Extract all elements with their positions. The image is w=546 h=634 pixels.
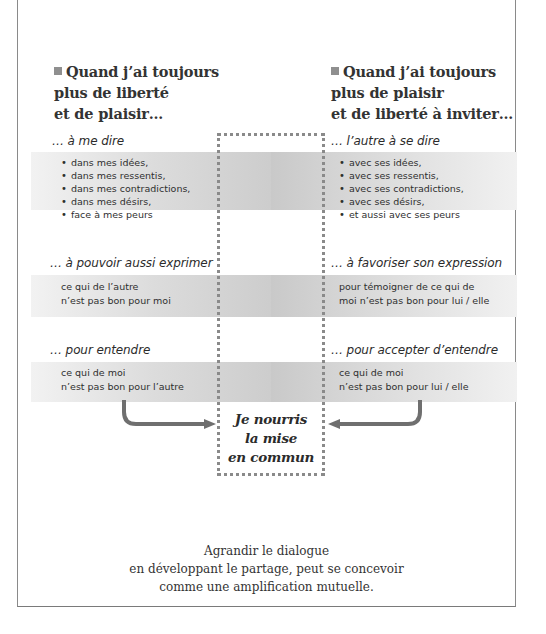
list-item: avec ses idées, bbox=[339, 156, 517, 169]
diagram-caption: Agrandir le dialogue en développant le p… bbox=[17, 542, 516, 596]
right-heading-line-1: Quand j’ai toujours bbox=[343, 63, 496, 80]
right-section-2-title: … à favoriser son expression bbox=[331, 256, 502, 270]
square-bullet-icon bbox=[54, 67, 62, 75]
left-arrow-icon bbox=[118, 400, 218, 430]
left-heading-line-2: plus de liberté bbox=[54, 82, 219, 103]
left-heading-line-1: Quand j’ai toujours bbox=[66, 63, 219, 80]
center-line-3: en commun bbox=[220, 448, 322, 467]
right-arrow-icon bbox=[326, 400, 426, 430]
center-line-1: Je nourris bbox=[220, 410, 322, 429]
right-heading: Quand j’ai toujours plus de plaisir et d… bbox=[331, 61, 513, 124]
left-heading: Quand j’ai toujours plus de liberté et d… bbox=[54, 61, 219, 124]
square-bullet-icon bbox=[331, 67, 339, 75]
right-section-3-title: … pour accepter d’entendre bbox=[331, 343, 498, 357]
right-section-2-text: pour témoigner de ce qui de moi n’est pa… bbox=[339, 280, 517, 307]
right-section-3-text: ce qui de moi n’est pas bon pour lui / e… bbox=[339, 366, 517, 393]
list-item: et aussi avec ses peurs bbox=[339, 208, 517, 221]
right-list-1: avec ses idées, avec ses ressentis, avec… bbox=[339, 156, 517, 221]
list-item: avec ses contradictions, bbox=[339, 182, 517, 195]
left-section-2-title: … à pouvoir aussi exprimer bbox=[50, 256, 212, 270]
left-section-3-title: … pour entendre bbox=[50, 343, 150, 357]
left-heading-line-3: et de plaisir… bbox=[54, 103, 219, 124]
list-item: avec ses désirs, bbox=[339, 195, 517, 208]
list-item: avec ses ressentis, bbox=[339, 169, 517, 182]
right-section-1-title: … l’autre à se dire bbox=[331, 134, 440, 148]
center-line-2: la mise bbox=[220, 429, 322, 448]
right-heading-line-2: plus de plaisir bbox=[331, 82, 513, 103]
right-heading-line-3: et de liberté à inviter… bbox=[331, 103, 513, 124]
center-statement: Je nourris la mise en commun bbox=[220, 410, 322, 467]
left-section-1-title: … à me dire bbox=[52, 134, 124, 148]
